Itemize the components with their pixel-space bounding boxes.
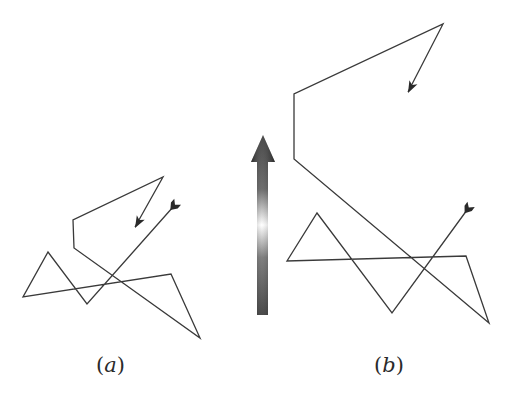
label-letter-a: a [104, 353, 117, 377]
label-paren-open: ( [374, 353, 382, 377]
panel-b [287, 24, 489, 323]
panel-b-label: (b) [374, 355, 404, 376]
fletching-icon-b [465, 202, 475, 214]
panel-a [23, 177, 200, 338]
diagram-canvas [0, 0, 506, 395]
label-paren-close: ) [117, 353, 125, 377]
fletching-icon-a [170, 199, 181, 210]
label-letter-b: b [382, 353, 395, 377]
label-paren-open: ( [96, 353, 104, 377]
trajectory-path-b [287, 24, 489, 323]
panel-a-label: (a) [96, 355, 125, 376]
up-arrow-icon [251, 135, 275, 315]
label-paren-close: ) [396, 353, 404, 377]
